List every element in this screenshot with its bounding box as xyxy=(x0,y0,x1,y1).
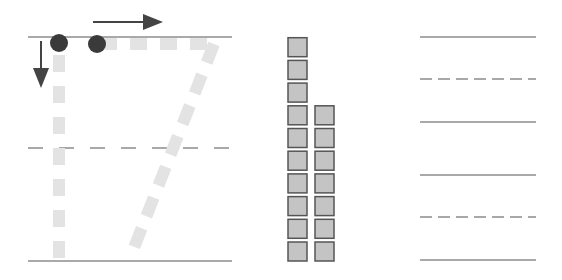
counting-square xyxy=(288,83,307,102)
counting-square xyxy=(288,219,307,238)
counting-square xyxy=(315,129,334,148)
start-dot-icon xyxy=(50,34,68,52)
counting-square xyxy=(288,151,307,170)
counting-square xyxy=(315,242,334,261)
digit-seven-trace xyxy=(59,44,214,258)
counting-square xyxy=(288,242,307,261)
counting-square xyxy=(288,174,307,193)
counting-blocks xyxy=(288,38,334,261)
start-dot-icon xyxy=(88,35,106,53)
counting-square xyxy=(315,197,334,216)
tracing-panel xyxy=(28,22,232,261)
practice-lines xyxy=(420,37,536,260)
counting-square xyxy=(288,38,307,57)
counting-square xyxy=(315,174,334,193)
counting-square xyxy=(315,219,334,238)
counting-square xyxy=(288,106,307,125)
counting-square xyxy=(288,60,307,79)
counting-square xyxy=(288,129,307,148)
counting-square xyxy=(315,106,334,125)
counting-square xyxy=(315,151,334,170)
counting-square xyxy=(288,197,307,216)
